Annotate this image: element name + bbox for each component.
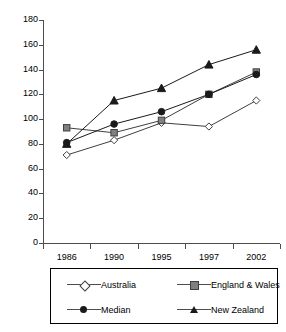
legend-marker-filled-square-icon [177,274,211,296]
data-point [111,137,118,144]
plot-area: 020406080100120140160180 198619901995199… [0,0,286,258]
series-median [63,71,259,146]
legend-marker-filled-triangle-icon [177,299,211,321]
data-point [111,121,118,128]
chart-legend: AustraliaEngland & WalesMedianNew Zealan… [50,268,278,324]
data-point [63,151,70,158]
legend-item[interactable]: Australia [67,274,136,296]
data-point [253,97,260,104]
legend-label: Australia [101,280,136,290]
data-point [157,84,165,92]
data-point [111,130,117,136]
data-point [252,46,260,54]
data-point [205,61,213,69]
data-point [64,125,70,131]
legend-marker-glyph [80,306,87,313]
series-layer [0,0,286,258]
legend-label: New Zealand [211,305,264,315]
legend-item[interactable]: England & Wales [177,274,280,296]
legend-marker-glyph [79,280,90,291]
legend-marker-glyph [190,306,198,313]
legend-label: England & Wales [211,280,280,290]
data-point [158,117,164,123]
legend-item[interactable]: New Zealand [177,299,264,321]
chart-figure: 020406080100120140160180 198619901995199… [0,0,286,332]
data-point [205,123,212,130]
legend-marker-open-diamond-icon [67,274,101,296]
data-point [158,108,165,115]
series-australia [63,97,260,159]
legend-item[interactable]: Median [67,299,131,321]
data-point [253,71,260,78]
legend-marker-glyph [190,281,199,290]
legend-marker-filled-circle-icon [67,299,101,321]
legend-label: Median [101,305,131,315]
series-line [67,50,257,144]
data-point [206,91,213,98]
